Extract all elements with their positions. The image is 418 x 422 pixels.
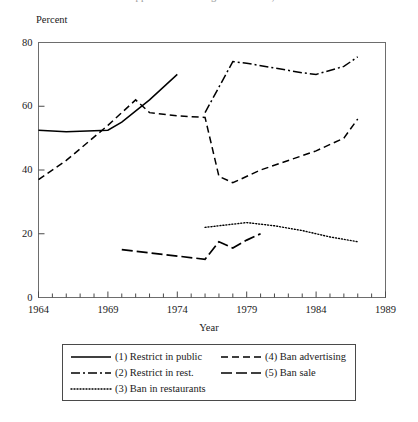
legend-spacer [219, 381, 351, 397]
legend-item-5[interactable]: (5) Ban sale [219, 365, 351, 381]
legend-label: (5) Ban sale [263, 366, 316, 380]
legend-grid: (1) Restrict in public(4) Ban advertisin… [69, 349, 351, 397]
legend-line-swatch [219, 350, 263, 364]
y-tick-label: 60 [3, 100, 33, 111]
legend-line-swatch [69, 350, 113, 364]
legend-item-4[interactable]: (4) Ban advertising [219, 349, 351, 365]
x-axis-label: Year [0, 322, 418, 333]
legend-label: (2) Restrict in rest. [113, 366, 194, 380]
x-tick-label: 1964 [19, 304, 59, 315]
legend-row: (2) Restrict in rest.(5) Ban sale [69, 365, 351, 381]
legend-row: (3) Ban in restaurants [69, 381, 351, 397]
y-tick-label: 80 [3, 37, 33, 48]
series-line-1 [39, 74, 178, 131]
x-tick-label: 1989 [366, 304, 406, 315]
legend-label: (3) Ban in restaurants [113, 382, 206, 396]
chart-lines-svg [0, 0, 418, 340]
plot-area: 020406080196419691974197919841989 [0, 0, 418, 340]
x-tick-label: 1969 [88, 304, 128, 315]
legend-item-1[interactable]: (1) Restrict in public [69, 349, 219, 365]
series-line-3 [205, 223, 358, 242]
x-tick-label: 1984 [296, 304, 336, 315]
legend: (1) Restrict in public(4) Ban advertisin… [62, 344, 356, 401]
legend-line-swatch [69, 382, 113, 396]
x-tick-label: 1979 [227, 304, 267, 315]
y-tick-label: 0 [3, 292, 33, 303]
series-line-4 [39, 100, 358, 183]
legend-item-2[interactable]: (2) Restrict in rest. [69, 365, 219, 381]
series-line-5 [122, 234, 261, 260]
legend-line-swatch [69, 366, 113, 380]
y-tick-label: 20 [3, 228, 33, 239]
legend-label: (4) Ban advertising [263, 350, 346, 364]
legend-item-3[interactable]: (3) Ban in restaurants [69, 381, 219, 397]
y-tick-label: 40 [3, 164, 33, 175]
series-line-2 [205, 57, 358, 113]
legend-label: (1) Restrict in public [113, 350, 202, 364]
legend-line-swatch [219, 366, 263, 380]
x-tick-label: 1974 [157, 304, 197, 315]
legend-row: (1) Restrict in public(4) Ban advertisin… [69, 349, 351, 365]
